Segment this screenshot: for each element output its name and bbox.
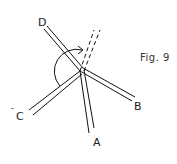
label-d: D	[38, 17, 46, 28]
label-c-mark: -	[11, 105, 14, 113]
line-d	[44, 26, 83, 71]
label-c: C	[16, 111, 24, 122]
figure-caption: Fig. 9	[140, 52, 170, 63]
line-a	[80, 70, 94, 133]
label-b: B	[134, 101, 142, 112]
diagram: D B A C - Fig. 9	[0, 0, 177, 164]
label-a: A	[93, 137, 101, 148]
vector-diagram	[0, 0, 177, 164]
